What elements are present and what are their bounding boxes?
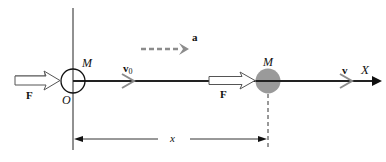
final-force-label: F (220, 88, 227, 100)
initial-force-label: F (26, 89, 33, 101)
final-velocity-label: v (342, 64, 348, 76)
x-axis-label: X (360, 62, 370, 77)
motion-diagram: X M O F v0 a F M v (0, 0, 386, 162)
acceleration-arrow-icon (141, 43, 189, 55)
final-force-arrow-icon (209, 72, 255, 89)
initial-velocity-label: v0 (123, 62, 133, 76)
displacement-label: x (169, 132, 175, 144)
initial-body-label: M (81, 56, 93, 70)
displacement-right-arrowhead-icon (258, 136, 267, 142)
acceleration-label: a (192, 31, 198, 43)
initial-force-arrow-icon (15, 71, 60, 90)
x-axis-arrowhead-icon (372, 76, 382, 86)
final-body-label: M (262, 55, 274, 69)
origin-label: O (62, 93, 71, 107)
displacement-left-arrowhead-icon (74, 136, 83, 142)
